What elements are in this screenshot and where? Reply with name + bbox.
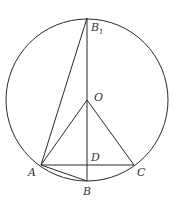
segment-a-b — [41, 165, 87, 181]
label-c: C — [137, 166, 146, 179]
label-b1: B1 — [90, 21, 104, 36]
segment-o-a — [41, 100, 87, 165]
geometry-diagram: B1 O D A C B — [0, 0, 180, 211]
label-d: D — [90, 151, 100, 164]
segment-a-b1 — [41, 18, 87, 165]
label-b: B — [82, 185, 91, 198]
label-o: O — [94, 91, 103, 104]
label-a: A — [27, 166, 36, 179]
